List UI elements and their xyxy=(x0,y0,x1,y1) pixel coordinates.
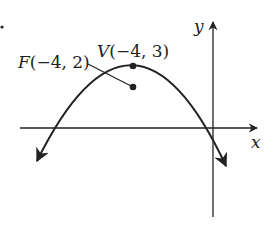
vertex-label: V(−4, 3) xyxy=(97,41,169,61)
y-axis-label: y xyxy=(193,16,204,36)
parabola-curve xyxy=(37,65,226,166)
vertex-point xyxy=(130,63,137,70)
focus-point xyxy=(130,84,137,91)
parabola-diagram: V(−4, 3) F(−4, 2) y x xyxy=(0,0,275,227)
x-axis-label: x xyxy=(251,132,261,152)
stray-dot xyxy=(0,25,3,28)
focus-label: F(−4, 2) xyxy=(17,52,90,72)
focus-leader-line xyxy=(88,64,131,86)
